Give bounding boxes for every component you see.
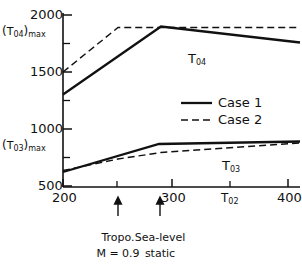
- series-t03-case2: [63, 143, 300, 171]
- y-minor-ticks: [63, 44, 70, 158]
- y-axis-label-t03-max: (T03)max: [2, 139, 46, 153]
- y-axis-label-t04-sub: 04: [13, 30, 23, 39]
- sea-level-marker-label-line1: Sea-level: [127, 232, 193, 243]
- tropo-arrow-icon: [115, 197, 122, 216]
- xtick-label-300: 300: [161, 191, 186, 204]
- ytick-label-1000: 1000: [30, 122, 63, 135]
- curve-label-t03-sub: 03: [230, 165, 240, 174]
- curve-label-t04: T04: [188, 52, 206, 67]
- x-major-ticks: [63, 179, 288, 187]
- x-axis-name: T02: [221, 192, 239, 206]
- y-axis-label-t04-suffix: max: [28, 30, 45, 39]
- x-minor-ticks: [117, 181, 230, 187]
- legend-label-case-2: Case 2: [218, 113, 262, 126]
- curve-label-t04-sub: 04: [196, 58, 206, 67]
- xtick-label-400: 400: [277, 191, 302, 204]
- legend-label-case-1: Case 1: [218, 96, 262, 109]
- y-axis-label-t03-suffix: max: [28, 144, 45, 153]
- sea-level-marker-label-line2: static: [127, 248, 193, 259]
- xtick-label-200: 200: [52, 191, 77, 204]
- ytick-label-2000: 2000: [30, 8, 63, 21]
- curve-label-t03: T03: [222, 159, 240, 174]
- series-t04-case1: [63, 27, 300, 95]
- x-axis-name-sub: 02: [228, 197, 238, 206]
- ytick-label-1500: 1500: [30, 65, 63, 78]
- series-t04-case2: [63, 28, 300, 73]
- y-axis-label-t04-max: (T04)max: [2, 25, 46, 39]
- y-axis-label-t03-sub: 03: [13, 144, 23, 153]
